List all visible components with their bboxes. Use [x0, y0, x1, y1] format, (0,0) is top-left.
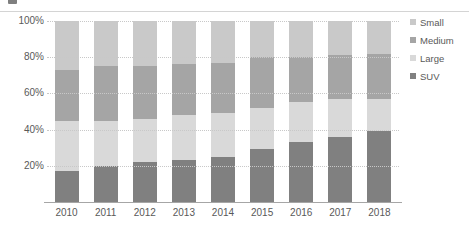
- bar-slot: [360, 21, 399, 202]
- legend-item-small[interactable]: Small: [410, 14, 468, 30]
- x-axis-tick-label: 2010: [47, 206, 86, 224]
- x-axis-tick-label: 2013: [164, 206, 203, 224]
- bar-segment-large[interactable]: [211, 113, 235, 156]
- x-axis-tick-label: 2018: [360, 206, 399, 224]
- bar-segment-medium[interactable]: [289, 57, 313, 102]
- stacked-bar[interactable]: [328, 21, 352, 202]
- x-axis-tick-label: 2011: [86, 206, 125, 224]
- legend-label: Small: [420, 17, 444, 28]
- bar-segment-large[interactable]: [172, 115, 196, 160]
- y-axis-tick-label: 100%: [2, 16, 44, 26]
- bar-slot: [86, 21, 125, 202]
- bar-segment-medium[interactable]: [367, 54, 391, 99]
- stacked-bar-chart: 100%80%60%40%20% 20102011201220132014201…: [0, 0, 469, 234]
- y-axis-tick-label: 80%: [2, 52, 44, 62]
- gridline: [47, 93, 399, 94]
- gridline: [47, 166, 399, 167]
- stacked-bar[interactable]: [211, 21, 235, 202]
- bar-segment-large[interactable]: [55, 121, 79, 172]
- stacked-bar[interactable]: [55, 21, 79, 202]
- y-axis: 100%80%60%40%20%: [0, 21, 44, 202]
- legend-swatch-icon: [410, 19, 416, 25]
- bar-segment-medium[interactable]: [172, 64, 196, 115]
- legend-swatch-icon: [410, 37, 416, 43]
- x-axis-tick-label: 2017: [321, 206, 360, 224]
- legend-swatch-icon: [410, 55, 416, 61]
- bar-segment-suv[interactable]: [211, 157, 235, 202]
- bar-segment-suv[interactable]: [133, 162, 157, 202]
- stacked-bar[interactable]: [133, 21, 157, 202]
- bar-segment-small[interactable]: [289, 21, 313, 57]
- bar-segment-medium[interactable]: [55, 70, 79, 121]
- stacked-bar[interactable]: [367, 21, 391, 202]
- legend-item-large[interactable]: Large: [410, 50, 468, 66]
- x-axis-tick-label: 2016: [282, 206, 321, 224]
- gridline: [47, 130, 399, 131]
- x-axis-line: [44, 202, 402, 203]
- bar-segment-large[interactable]: [367, 99, 391, 132]
- bar-segment-large[interactable]: [133, 119, 157, 162]
- bar-segment-large[interactable]: [289, 102, 313, 142]
- gridline: [47, 21, 399, 22]
- legend-label: Large: [420, 53, 444, 64]
- bar-segment-medium[interactable]: [250, 57, 274, 108]
- y-axis-tick-label: 20%: [2, 161, 44, 171]
- bar-segment-large[interactable]: [94, 121, 118, 166]
- header-divider: [0, 11, 469, 12]
- bar-slot: [321, 21, 360, 202]
- bar-segment-suv[interactable]: [55, 171, 79, 202]
- plot-area: [47, 21, 399, 202]
- legend-item-suv[interactable]: SUV: [410, 68, 468, 84]
- bar-group: [47, 21, 399, 202]
- x-axis-labels: 201020112012201320142015201620172018: [47, 206, 399, 224]
- legend-label: SUV: [420, 71, 440, 82]
- bar-segment-suv[interactable]: [250, 149, 274, 201]
- stacked-bar[interactable]: [289, 21, 313, 202]
- chart-legend: SmallMediumLargeSUV: [410, 14, 468, 86]
- bar-segment-small[interactable]: [94, 21, 118, 66]
- bar-segment-large[interactable]: [328, 99, 352, 137]
- bar-segment-suv[interactable]: [328, 137, 352, 202]
- x-axis-tick-label: 2015: [243, 206, 282, 224]
- bar-segment-suv[interactable]: [289, 142, 313, 202]
- bar-slot: [125, 21, 164, 202]
- bar-segment-small[interactable]: [367, 21, 391, 54]
- legend-swatch-icon: [410, 73, 416, 79]
- bar-segment-medium[interactable]: [211, 63, 235, 114]
- bar-slot: [203, 21, 242, 202]
- y-axis-tick-label: 60%: [2, 88, 44, 98]
- x-axis-tick-label: 2012: [125, 206, 164, 224]
- legend-label: Medium: [420, 35, 454, 46]
- bar-segment-small[interactable]: [133, 21, 157, 66]
- stacked-bar[interactable]: [94, 21, 118, 202]
- bar-segment-small[interactable]: [328, 21, 352, 55]
- bar-segment-suv[interactable]: [94, 166, 118, 202]
- bar-slot: [164, 21, 203, 202]
- stacked-bar[interactable]: [250, 21, 274, 202]
- bar-segment-medium[interactable]: [328, 55, 352, 98]
- legend-item-medium[interactable]: Medium: [410, 32, 468, 48]
- y-axis-tick-label: 40%: [2, 125, 44, 135]
- bar-segment-small[interactable]: [55, 21, 79, 70]
- stacked-bar[interactable]: [172, 21, 196, 202]
- bar-segment-small[interactable]: [250, 21, 274, 57]
- bar-slot: [47, 21, 86, 202]
- bar-slot: [243, 21, 282, 202]
- cropped-marker-icon: [8, 0, 17, 4]
- gridline: [47, 57, 399, 58]
- x-axis-tick-label: 2014: [203, 206, 242, 224]
- bar-slot: [282, 21, 321, 202]
